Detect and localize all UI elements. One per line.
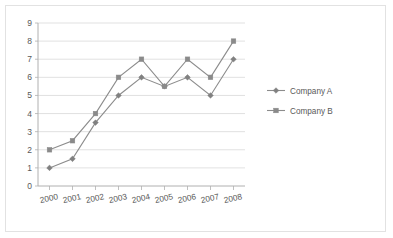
- y-tick-label-4: 4: [27, 109, 32, 119]
- y-tick-label-8: 8: [27, 36, 32, 46]
- legend-item-company-b[interactable]: Company B: [267, 107, 333, 116]
- data-point-2001-Company-A: [70, 156, 76, 162]
- y-tick-label-9: 9: [27, 18, 32, 28]
- x-tick-label-2000: 2000: [39, 192, 59, 205]
- x-tick-label-2007: 2007: [200, 192, 220, 205]
- legend-marker-diamond: [273, 88, 279, 94]
- chart-frame: 0123456789200020012002200320042005200620…: [5, 5, 386, 232]
- data-point-2008-Company-A: [231, 56, 237, 62]
- y-tick-label-1: 1: [27, 163, 32, 173]
- legend-marker-square: [274, 108, 279, 113]
- x-tick-label-2003: 2003: [108, 192, 128, 205]
- data-point-2001-Company-B: [70, 138, 75, 143]
- y-tick-label-2: 2: [27, 145, 32, 155]
- y-tick-label-7: 7: [27, 54, 32, 64]
- data-point-2006-Company-B: [185, 57, 190, 62]
- data-point-2008-Company-B: [231, 39, 236, 44]
- x-tick-label-2006: 2006: [177, 192, 197, 205]
- x-tick-label-2002: 2002: [85, 192, 105, 205]
- x-tick-label-2005: 2005: [154, 192, 174, 205]
- y-tick-label-6: 6: [27, 72, 32, 82]
- y-tick-label-5: 5: [27, 90, 32, 100]
- data-point-2005-Company-B: [162, 84, 167, 89]
- x-tick-label-2008: 2008: [223, 192, 243, 205]
- y-tick-label-3: 3: [27, 127, 32, 137]
- data-point-2002-Company-B: [93, 111, 98, 116]
- chart-plot-area: 0123456789200020012002200320042005200620…: [6, 6, 387, 233]
- data-point-2004-Company-B: [139, 57, 144, 62]
- data-point-2000-Company-A: [47, 165, 53, 171]
- legend-item-company-a[interactable]: Company A: [267, 87, 333, 96]
- data-point-2007-Company-B: [208, 75, 213, 80]
- x-tick-label-2001: 2001: [62, 192, 82, 205]
- y-tick-label-0: 0: [27, 181, 32, 191]
- data-point-2003-Company-B: [116, 75, 121, 80]
- line-chart: 0123456789200020012002200320042005200620…: [6, 6, 387, 233]
- x-tick-label-2004: 2004: [131, 192, 151, 205]
- data-point-2000-Company-B: [47, 147, 52, 152]
- legend-label-1: Company B: [290, 107, 333, 116]
- legend-label-0: Company A: [290, 87, 333, 96]
